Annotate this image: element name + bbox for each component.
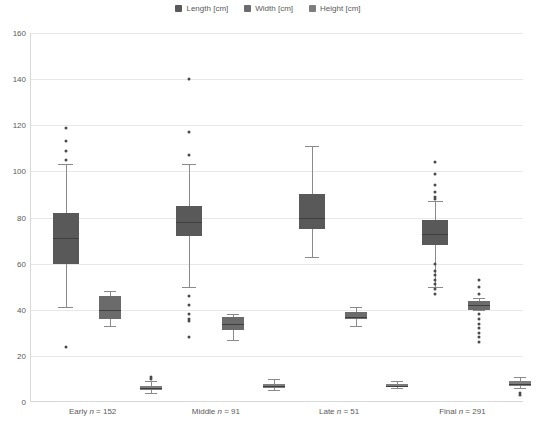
- outlier-point: [478, 327, 481, 330]
- outlier-point: [478, 285, 481, 288]
- whisker-line: [397, 381, 398, 388]
- median-line: [509, 384, 531, 385]
- y-axis-tick-label: 40: [0, 305, 26, 314]
- legend-item-1[interactable]: Width [cm]: [244, 4, 293, 13]
- whisker-cap-upper: [305, 146, 319, 147]
- outlier-point: [149, 375, 152, 378]
- outlier-point: [64, 149, 67, 152]
- outlier-point: [434, 292, 437, 295]
- median-line: [176, 222, 202, 223]
- whisker-cap-lower: [428, 287, 442, 288]
- legend-item-2[interactable]: Height [cm]: [309, 4, 360, 13]
- legend-item-label: Width [cm]: [255, 4, 293, 13]
- whisker-cap-lower: [514, 388, 526, 389]
- x-axis-tick-label-late: Late n = 51: [319, 407, 359, 416]
- outlier-point: [187, 313, 190, 316]
- gridline-y-20: [31, 356, 523, 357]
- whisker-line: [312, 146, 313, 257]
- outlier-point: [64, 140, 67, 143]
- whisker-cap-upper: [182, 164, 196, 165]
- gridline-y-40: [31, 310, 523, 311]
- whisker-line: [189, 164, 190, 286]
- outlier-point: [478, 331, 481, 334]
- whisker-line: [151, 381, 152, 393]
- y-axis-tick-label: 160: [0, 29, 26, 38]
- box-iqr: [422, 220, 448, 245]
- outlier-point: [434, 184, 437, 187]
- outlier-point: [434, 283, 437, 286]
- outlier-point: [434, 195, 437, 198]
- median-line: [222, 324, 244, 325]
- whisker-cap-lower: [305, 257, 319, 258]
- gridline-y-100: [31, 171, 523, 172]
- gridline-y-160: [31, 33, 523, 34]
- whisker-line: [233, 314, 234, 339]
- whisker-cap-upper: [268, 379, 280, 380]
- y-axis-tick-label: 140: [0, 75, 26, 84]
- median-line: [345, 317, 367, 318]
- legend-item-label: Length [cm]: [186, 4, 228, 13]
- outlier-point: [64, 126, 67, 129]
- outlier-point: [434, 161, 437, 164]
- whisker-cap-upper: [104, 291, 116, 292]
- box-iqr: [386, 384, 408, 386]
- whisker-cap-upper: [391, 381, 403, 382]
- box-iqr: [222, 317, 244, 331]
- outlier-point: [187, 336, 190, 339]
- whisker-cap-lower: [182, 287, 196, 288]
- box-iqr: [99, 296, 121, 319]
- whisker-cap-upper: [145, 381, 157, 382]
- whisker-cap-lower: [268, 390, 280, 391]
- x-axis-tick-label-early: Early n = 152: [69, 407, 116, 416]
- box-iqr: [176, 206, 202, 236]
- box-iqr: [140, 386, 162, 391]
- outlier-point: [434, 191, 437, 194]
- outlier-point: [187, 304, 190, 307]
- gridline-y-80: [31, 218, 523, 219]
- outlier-point: [478, 313, 481, 316]
- outlier-point: [187, 320, 190, 323]
- outlier-point: [434, 172, 437, 175]
- whisker-cap-lower: [58, 307, 72, 308]
- outlier-point: [478, 292, 481, 295]
- whisker-line: [274, 379, 275, 391]
- whisker-cap-upper: [58, 164, 72, 165]
- legend-swatch-icon: [244, 5, 251, 12]
- outlier-point: [478, 336, 481, 339]
- legend-swatch-icon: [175, 5, 182, 12]
- outlier-point: [434, 269, 437, 272]
- whisker-cap-lower: [104, 326, 116, 327]
- outlier-point: [187, 131, 190, 134]
- outlier-point: [478, 278, 481, 281]
- gridline-y-120: [31, 125, 523, 126]
- whisker-line: [66, 164, 67, 307]
- box-iqr: [509, 381, 531, 386]
- median-line: [53, 238, 79, 239]
- outlier-point: [519, 391, 522, 394]
- legend-item-0[interactable]: Length [cm]: [175, 4, 228, 13]
- outlier-point: [149, 377, 152, 380]
- outlier-point: [478, 341, 481, 344]
- legend-swatch-icon: [309, 5, 316, 12]
- outlier-point: [478, 322, 481, 325]
- whisker-cap-lower: [350, 326, 362, 327]
- outlier-point: [187, 317, 190, 320]
- whisker-line: [520, 377, 521, 389]
- gridline-y-60: [31, 264, 523, 265]
- box-iqr: [263, 384, 285, 389]
- outlier-point: [434, 278, 437, 281]
- x-axis-tick-label-middle: Middle n = 91: [192, 407, 240, 416]
- median-line: [422, 234, 448, 235]
- chart-legend: Length [cm]Width [cm]Height [cm]: [0, 4, 536, 13]
- outlier-point: [478, 317, 481, 320]
- outlier-point: [434, 287, 437, 290]
- gridline-y-140: [31, 79, 523, 80]
- y-axis-tick-label: 80: [0, 213, 26, 222]
- whisker-cap-upper: [473, 298, 485, 299]
- y-axis-tick-label: 0: [0, 398, 26, 407]
- box-iqr: [345, 312, 367, 319]
- median-line: [263, 386, 285, 387]
- whisker-cap-lower: [145, 393, 157, 394]
- whisker-cap-lower: [227, 340, 239, 341]
- whisker-line: [479, 298, 480, 310]
